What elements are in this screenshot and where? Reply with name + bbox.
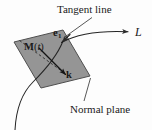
vector-k-label: k bbox=[66, 70, 72, 81]
line-L-label: L bbox=[135, 26, 142, 38]
tangent-line-L bbox=[62, 32, 129, 43]
e1-base: e bbox=[53, 27, 58, 38]
e1-subscript: 1 bbox=[58, 32, 62, 40]
point-M-close-paren: ) bbox=[40, 41, 44, 52]
normal-plane-leader bbox=[84, 78, 91, 101]
point-M-label: M(t) bbox=[24, 42, 44, 53]
tangent-line-label: Tangent line bbox=[57, 4, 112, 15]
point-M-letter: M bbox=[24, 41, 34, 52]
normal-plane-parallelogram bbox=[14, 30, 90, 88]
tangent-line-leader bbox=[64, 18, 93, 39]
tangent-line-normal-plane-figure: Tangent line L e1 M(t) k Normal plane bbox=[0, 0, 152, 130]
normal-plane-label: Normal plane bbox=[70, 104, 130, 115]
unit-tangent-e1-label: e1 bbox=[53, 28, 61, 40]
